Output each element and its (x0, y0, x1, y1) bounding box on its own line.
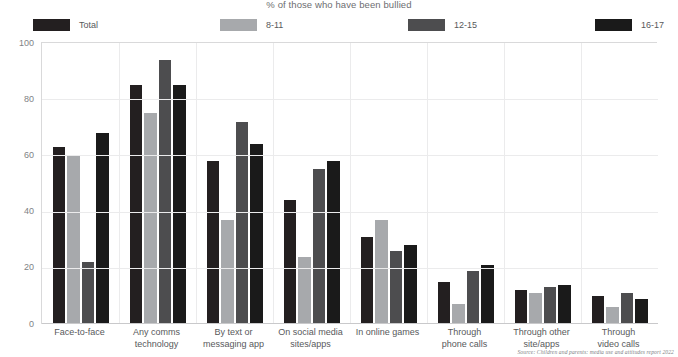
x-axis-category-line: Through (580, 327, 657, 339)
bar-group (42, 43, 119, 324)
bar[interactable] (67, 155, 80, 324)
source-note: Source: Children and parents: media use … (517, 349, 674, 355)
bullying-bar-chart: % of those who have been bullied Total8-… (0, 0, 678, 357)
bar[interactable] (481, 265, 494, 324)
bar[interactable] (221, 220, 234, 324)
bar[interactable] (544, 287, 557, 324)
bar[interactable] (250, 144, 263, 324)
x-axis-category-label: On social mediasites/apps (272, 327, 349, 350)
x-axis-category-label: Any commstechnology (118, 327, 195, 350)
x-axis-category-line: Face-to-face (41, 327, 118, 339)
legend-swatch-icon (408, 19, 445, 31)
x-axis-category-label: Through othersite/apps (503, 327, 580, 350)
group-separator (427, 43, 428, 324)
legend-swatch-icon (33, 19, 70, 31)
group-separator (119, 43, 120, 324)
bar[interactable] (606, 307, 619, 324)
bar[interactable] (515, 290, 528, 324)
bar-group (427, 43, 504, 324)
bar-group (504, 43, 581, 324)
bar[interactable] (467, 271, 480, 324)
group-separator (504, 43, 505, 324)
bar[interactable] (621, 293, 634, 324)
y-axis-labels: 020406080100 (0, 43, 34, 324)
legend-label: 12-15 (454, 19, 477, 31)
y-axis-tick-label: 80 (0, 95, 34, 104)
legend-item-total[interactable]: Total (33, 17, 98, 32)
bar-groups (42, 43, 658, 324)
legend-swatch-icon (220, 19, 257, 31)
gridline (42, 99, 658, 100)
bar-group (581, 43, 658, 324)
gridline (42, 155, 658, 156)
bar[interactable] (390, 251, 403, 324)
bar[interactable] (635, 299, 648, 324)
bar[interactable] (452, 304, 465, 324)
bar[interactable] (236, 122, 249, 324)
bar[interactable] (313, 169, 326, 324)
chart-legend: Total8-1112-1516-17 (33, 17, 653, 32)
group-separator (350, 43, 351, 324)
bar[interactable] (529, 293, 542, 324)
gridline (42, 212, 658, 213)
y-axis-tick-label: 60 (0, 151, 34, 160)
gridline (42, 268, 658, 269)
group-separator (581, 43, 582, 324)
legend-label: 8-11 (266, 19, 283, 31)
legend-item-12-15[interactable]: 12-15 (408, 17, 477, 32)
legend-item-8-11[interactable]: 8-11 (220, 17, 283, 32)
bar-group (196, 43, 273, 324)
x-axis-category-line: On social media (272, 327, 349, 339)
bar-group (350, 43, 427, 324)
bar[interactable] (558, 285, 571, 324)
x-axis-category-line: Through (426, 327, 503, 339)
legend-swatch-icon (595, 19, 632, 31)
bar[interactable] (130, 85, 143, 324)
plot-area (41, 43, 657, 324)
y-axis-tick-label: 40 (0, 207, 34, 216)
x-axis-category-label: By text ormessaging app (195, 327, 272, 350)
bar[interactable] (173, 85, 186, 324)
x-axis-category-line: messaging app (195, 339, 272, 351)
x-axis-category-label: Throughphone calls (426, 327, 503, 350)
x-axis-category-line: Any comms (118, 327, 195, 339)
bar[interactable] (298, 257, 311, 324)
bar-group (273, 43, 350, 324)
x-axis-category-line: sites/apps (272, 339, 349, 351)
bar[interactable] (96, 133, 109, 324)
group-separator (196, 43, 197, 324)
y-axis-tick-label: 0 (0, 320, 34, 329)
x-axis-category-line: Through other (503, 327, 580, 339)
bar[interactable] (82, 262, 95, 324)
x-axis-baseline (42, 323, 658, 324)
bar[interactable] (53, 147, 66, 324)
x-axis-category-label: Throughvideo calls (580, 327, 657, 350)
bar[interactable] (375, 220, 388, 324)
bar[interactable] (207, 161, 220, 324)
group-separator (273, 43, 274, 324)
bar[interactable] (592, 296, 605, 324)
x-axis-category-line: In online games (349, 327, 426, 339)
y-axis-tick-label: 20 (0, 263, 34, 272)
bar[interactable] (438, 282, 451, 324)
bar-group (119, 43, 196, 324)
x-axis-category-label: In online games (349, 327, 426, 339)
legend-item-16-17[interactable]: 16-17 (595, 17, 664, 32)
x-axis-category-line: phone calls (426, 339, 503, 351)
bar[interactable] (284, 200, 297, 324)
chart-subtitle: % of those who have been bullied (0, 0, 678, 11)
legend-label: Total (79, 19, 98, 31)
legend-label: 16-17 (641, 19, 664, 31)
x-axis-category-line: technology (118, 339, 195, 351)
y-axis-tick-label: 100 (0, 39, 34, 48)
bar[interactable] (361, 237, 374, 324)
x-axis-category-line: By text or (195, 327, 272, 339)
x-axis-category-label: Face-to-face (41, 327, 118, 339)
bar[interactable] (327, 161, 340, 324)
bar[interactable] (404, 245, 417, 324)
bar[interactable] (144, 113, 157, 324)
